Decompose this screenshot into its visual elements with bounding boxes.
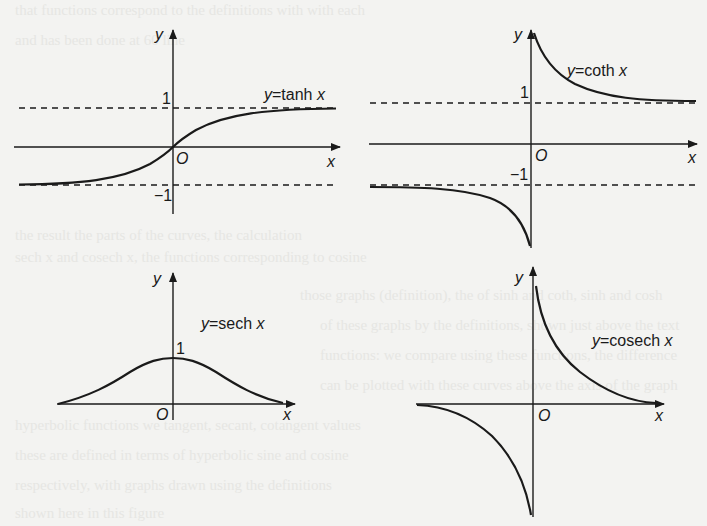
origin-label: O xyxy=(156,406,168,423)
svg-text:shown here in this figure: shown here in this figure xyxy=(15,505,164,521)
y-axis-label: y xyxy=(154,26,164,43)
curve-label-coth: y=coth x xyxy=(566,62,628,79)
svg-text:of these graphs by the definit: of these graphs by the definitions, show… xyxy=(320,317,680,333)
tick-label-1: 1 xyxy=(162,90,171,107)
x-axis-label: x xyxy=(654,407,664,424)
svg-text:sech x and cosech x, the funct: sech x and cosech x, the functions corre… xyxy=(15,249,367,265)
svg-text:hyperbolic functions we tangen: hyperbolic functions we tangent, secant,… xyxy=(15,417,361,433)
curve-label-sech: y=sech x xyxy=(200,315,266,332)
svg-text:that functions correspond to t: that functions correspond to the definit… xyxy=(15,2,365,18)
origin-label: O xyxy=(535,147,547,164)
curve-label-cosech: y=cosech x xyxy=(591,332,673,349)
origin-label: O xyxy=(538,407,550,424)
tick-label-1: 1 xyxy=(176,340,185,357)
svg-text:those graphs (definition), the: those graphs (definition), the of sinh a… xyxy=(300,287,663,304)
curve-label-tanh: y=tanh x xyxy=(263,86,326,103)
hyperbolic-graphs-figure: that functions correspond to the definit… xyxy=(0,0,707,526)
svg-text:these are defined in terms of: these are defined in terms of hyperbolic… xyxy=(15,447,349,463)
tick-label-neg1: −1 xyxy=(510,166,528,183)
y-axis-label: y xyxy=(152,270,162,287)
svg-text:the result the parts of the cu: the result the parts of the curves, the … xyxy=(15,227,302,243)
svg-text:functions: we compare using th: functions: we compare using these functi… xyxy=(320,347,677,363)
tick-label-1: 1 xyxy=(520,84,529,101)
origin-label: O xyxy=(176,150,188,167)
x-axis-label: x xyxy=(282,406,292,423)
x-axis-label: x xyxy=(326,153,336,170)
svg-text:respectively, with graphs draw: respectively, with graphs drawn using th… xyxy=(15,477,332,493)
y-axis-label: y xyxy=(514,269,524,286)
x-axis-label: x xyxy=(687,149,697,166)
svg-text:can be plotted with these curv: can be plotted with these curves above t… xyxy=(320,377,678,393)
tick-label-neg1: −1 xyxy=(154,187,172,204)
y-axis-label: y xyxy=(513,26,523,43)
